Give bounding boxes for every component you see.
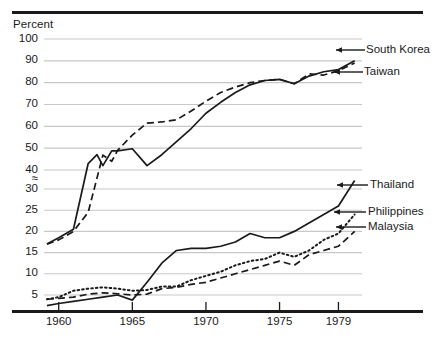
leader-arrow (336, 47, 365, 52)
series-label-south-korea: South Korea (366, 43, 430, 55)
y-tick-60: 60 (8, 119, 38, 131)
series-line-taiwan (47, 63, 355, 244)
x-tick-1979: 1979 (315, 315, 361, 327)
y-tick-100: 100 (8, 32, 38, 44)
y-tick-80: 80 (8, 75, 38, 87)
axis-break-symbol: ≈ (8, 172, 38, 184)
series-label-taiwan: Taiwan (364, 65, 400, 77)
y-tick-70: 70 (8, 97, 38, 109)
y-tick-50: 50 (8, 141, 38, 153)
series-label-thailand: Thailand (370, 178, 414, 190)
y-tick-10: 10 (8, 266, 38, 278)
x-tick-1960: 1960 (36, 315, 82, 327)
x-tick-1965: 1965 (109, 315, 155, 327)
y-tick-20: 20 (8, 224, 38, 236)
x-tick-1975: 1975 (257, 315, 303, 327)
series-label-malaysia: Malaysia (368, 220, 413, 232)
y-tick-15: 15 (8, 245, 38, 257)
series-line-south-korea (47, 61, 355, 244)
y-tick-25: 25 (8, 203, 38, 215)
leader-arrow (336, 224, 366, 229)
series-line-thailand (47, 181, 355, 306)
leader-arrow (334, 69, 363, 74)
y-tick-90: 90 (8, 53, 38, 65)
series-line-malaysia (47, 214, 355, 299)
series-label-philippines: Philippines (368, 205, 424, 217)
x-tick-1970: 1970 (183, 315, 229, 327)
y-tick-5: 5 (8, 288, 38, 300)
chart-figure: Percent 51015202530405060708090100 ≈ 196… (0, 0, 435, 343)
